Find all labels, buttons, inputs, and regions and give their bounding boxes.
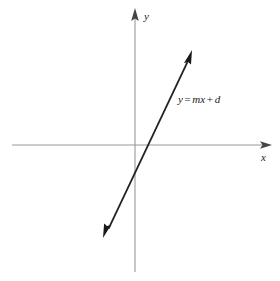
- line-arrowhead-upper-icon: [184, 50, 192, 65]
- equation-term-y: y: [177, 93, 183, 105]
- x-axis-label: x: [260, 151, 266, 163]
- equation-term-x: x: [199, 93, 205, 105]
- equation-operator-equals: =: [184, 93, 190, 105]
- line-arrowhead-lower-icon: [103, 223, 111, 238]
- figure-canvas: y x y=mx+d: [0, 0, 280, 281]
- equation-term-m: m: [192, 93, 200, 105]
- line-equation-label: y=mx+d: [177, 93, 221, 105]
- equation-term-d: d: [215, 93, 221, 105]
- coordinate-plane-graphic: y x y=mx+d: [0, 0, 280, 281]
- equation-operator-plus: +: [207, 93, 213, 105]
- y-axis-label: y: [143, 10, 149, 22]
